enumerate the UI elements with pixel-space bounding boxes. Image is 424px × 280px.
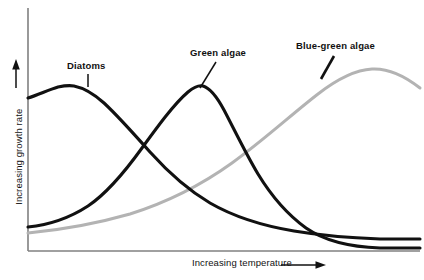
y-axis-label: Increasing growth rate: [14, 92, 24, 222]
right-arrow-icon: [316, 261, 327, 269]
series-label-blue-green-algae: Blue-green algae: [296, 41, 375, 51]
leader-line-blue-green-algae: [321, 56, 334, 79]
growth-rate-temperature-chart: Diatoms Green algae Blue-green algae Inc…: [0, 0, 424, 280]
leader-line-green-algae: [200, 62, 216, 88]
series-label-green-algae: Green algae: [190, 48, 246, 58]
series-label-diatoms: Diatoms: [67, 61, 106, 71]
x-axis-label: Increasing temperature: [192, 258, 292, 268]
up-arrow-icon: [12, 59, 20, 70]
